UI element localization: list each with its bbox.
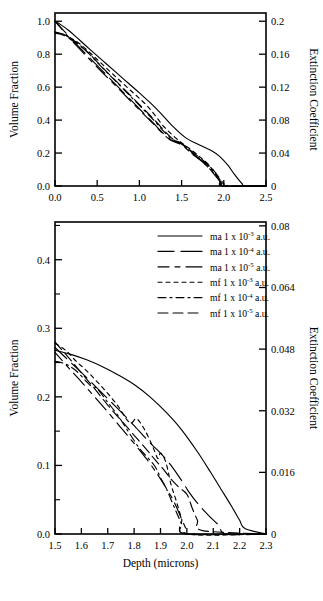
y2label-top-panel: Extinction Coefficient — [308, 48, 320, 151]
y2tick-label-bottom-panel-5: 0.08 — [271, 221, 289, 232]
legend-label-3: mf 1 x 10-3 a.u. — [210, 276, 269, 288]
series-line-top-panel-5 — [55, 33, 266, 186]
ylabel-top-panel: Volume Fraction — [8, 61, 20, 138]
y2tick-label-top-panel-4: 0.16 — [271, 49, 289, 60]
ytick-label-bottom-panel-2: 0.2 — [37, 392, 50, 403]
xtick-label-bottom-panel-1: 1.6 — [75, 540, 88, 551]
scientific-figure: 0.00.51.01.52.02.50.00.20.40.60.81.000.0… — [0, 0, 323, 601]
series-line-top-panel-3 — [55, 33, 266, 187]
xtick-label-bottom-panel-3: 1.8 — [128, 540, 141, 551]
series-line-bottom-panel-1 — [55, 347, 266, 534]
ylabel-bottom-panel: Volume Fraction — [8, 339, 20, 416]
legend-label-4: mf 1 x 10-4 a.u. — [210, 292, 269, 304]
ytick-label-top-panel-3: 0.6 — [37, 82, 50, 93]
y2tick-label-bottom-panel-3: 0.048 — [271, 344, 295, 355]
ytick-label-top-panel-0: 0.0 — [37, 181, 50, 192]
y2tick-label-bottom-panel-1: 0.016 — [271, 467, 295, 478]
ytick-label-top-panel-4: 0.8 — [37, 49, 50, 60]
y2tick-label-top-panel-1: 0.04 — [271, 148, 290, 159]
ytick-label-bottom-panel-4: 0.4 — [37, 255, 51, 266]
xtick-label-bottom-panel-8: 2.3 — [259, 540, 272, 551]
ytick-label-top-panel-2: 0.4 — [37, 115, 51, 126]
xtick-label-top-panel-1: 0.5 — [91, 192, 104, 203]
xtick-label-top-panel-5: 2.5 — [259, 192, 272, 203]
series-line-bottom-panel-3 — [55, 343, 266, 535]
xlabel-bottom-panel: Depth (microns) — [123, 557, 199, 570]
ytick-label-top-panel-1: 0.2 — [37, 148, 50, 159]
y2tick-label-bottom-panel-0: 0 — [271, 529, 276, 540]
xtick-label-top-panel-0: 0.0 — [48, 192, 61, 203]
y2tick-label-bottom-panel-4: 0.064 — [271, 282, 295, 293]
xtick-label-bottom-panel-6: 2.1 — [207, 540, 220, 551]
series-line-top-panel-4 — [55, 32, 266, 186]
xtick-label-bottom-panel-4: 1.9 — [154, 540, 167, 551]
series-line-bottom-panel-4 — [55, 361, 266, 535]
y2tick-label-top-panel-0: 0 — [271, 181, 276, 192]
xtick-label-bottom-panel-5: 2.0 — [180, 540, 193, 551]
ytick-label-bottom-panel-3: 0.3 — [37, 323, 50, 334]
legend-label-1: ma 1 x 10-4 a.u. — [210, 246, 270, 258]
xtick-label-bottom-panel-0: 1.5 — [48, 540, 61, 551]
legend-label-5: mf 1 x 10-5 a.u. — [210, 307, 269, 319]
legend-label-0: ma 1 x 10-3 a.u. — [210, 230, 270, 242]
ytick-label-top-panel-5: 1.0 — [37, 16, 50, 27]
y2tick-label-top-panel-5: 0.2 — [271, 16, 284, 27]
xtick-label-top-panel-3: 1.5 — [175, 192, 188, 203]
series-line-top-panel-0 — [55, 21, 266, 186]
xtick-label-top-panel-4: 2.0 — [217, 192, 230, 203]
xtick-label-top-panel-2: 1.0 — [133, 192, 146, 203]
figure-container: 0.00.51.01.52.02.50.00.20.40.60.81.000.0… — [0, 0, 323, 601]
y2tick-label-bottom-panel-2: 0.032 — [271, 406, 295, 417]
plot-frame-top-panel — [55, 13, 266, 186]
y2tick-label-top-panel-2: 0.08 — [271, 115, 289, 126]
xtick-label-bottom-panel-7: 2.2 — [233, 540, 246, 551]
ytick-label-bottom-panel-0: 0.0 — [37, 529, 50, 540]
y2tick-label-top-panel-3: 0.12 — [271, 82, 289, 93]
xtick-label-bottom-panel-2: 1.7 — [101, 540, 114, 551]
y2label-bottom-panel: Extinction Coefficient — [308, 327, 320, 430]
legend-label-2: ma 1 x 10-5 a.u. — [210, 261, 270, 273]
ytick-label-bottom-panel-1: 0.1 — [37, 460, 50, 471]
